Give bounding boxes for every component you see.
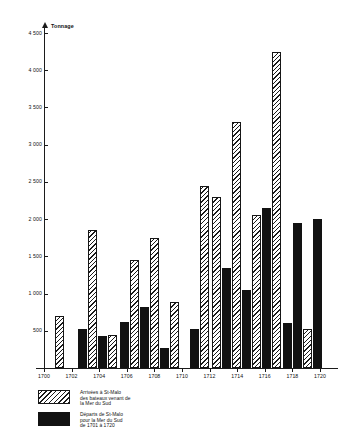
bar-dep-1706 [140, 307, 149, 368]
bar-arr-1703 [88, 230, 97, 368]
bar-arr-1713 [252, 215, 261, 368]
x-tick-label-1720: 1720 [314, 373, 326, 379]
legend-item-arrivals: Arrivées à St-Malo des bateaux venant de… [38, 390, 131, 407]
x-tick-1716 [265, 368, 266, 372]
x-tick-1704 [99, 368, 100, 372]
bar-dep-1713 [262, 208, 271, 368]
chart-page: Tonnage 5001 0001 5002 0002 5003 0003 50… [0, 0, 346, 446]
bar-dep-1707 [160, 348, 169, 368]
x-tick-label-1702: 1702 [66, 373, 78, 379]
bar-arr-1704 [108, 335, 117, 368]
x-tick-1700 [44, 368, 45, 372]
bar-arr-1714 [272, 52, 281, 368]
plot-area [0, 0, 346, 380]
bar-dep-1705 [120, 322, 129, 368]
chart-legend: Arrivées à St-Malo des bateaux venant de… [38, 390, 328, 442]
bar-dep-1711 [222, 268, 231, 369]
x-tick-label-1708: 1708 [148, 373, 160, 379]
x-tick-1702 [72, 368, 73, 372]
bar-dep-1715 [293, 223, 302, 368]
x-tick-label-1706: 1706 [121, 373, 133, 379]
bar-arr-1708 [170, 302, 179, 368]
x-tick-label-1714: 1714 [231, 373, 243, 379]
bar-arr-1710 [200, 186, 209, 368]
x-tick-1718 [292, 368, 293, 372]
bar-arr-1707 [150, 238, 159, 368]
x-tick-1710 [182, 368, 183, 372]
bar-dep-1710 [190, 329, 199, 368]
bar-dep-1702 [78, 329, 87, 368]
bar-dep-1712 [242, 290, 251, 368]
x-tick-label-1712: 1712 [204, 373, 216, 379]
legend-swatch-arrivals [38, 390, 70, 404]
legend-label-departures: Départs de St-Malo pour la Mer du Sud de… [80, 412, 123, 429]
bar-arr-1716 [303, 329, 312, 368]
x-tick-label-1710: 1710 [176, 373, 188, 379]
x-tick-label-1700: 1700 [38, 373, 50, 379]
bar-arr-1712 [232, 122, 241, 368]
x-tick-label-1718: 1718 [286, 373, 298, 379]
x-tick-label-1716: 1716 [259, 373, 271, 379]
x-tick-1708 [154, 368, 155, 372]
bar-dep-1703 [98, 336, 107, 368]
bar-arr-1711 [212, 197, 221, 368]
legend-item-departures: Départs de St-Malo pour la Mer du Sud de… [38, 412, 123, 429]
bar-arr-1705 [130, 260, 139, 368]
legend-label-arrivals: Arrivées à St-Malo des bateaux venant de… [80, 390, 131, 407]
bar-dep-1714 [283, 323, 292, 368]
x-tick-1720 [320, 368, 321, 372]
tonnage-bar-chart: Tonnage 5001 0001 5002 0002 5003 0003 50… [0, 0, 346, 380]
bar-dep-1716 [313, 219, 322, 368]
x-tick-1712 [210, 368, 211, 372]
x-tick-1706 [127, 368, 128, 372]
legend-swatch-departures [38, 412, 70, 426]
x-tick-1714 [237, 368, 238, 372]
bar-arr-1701 [55, 316, 64, 368]
x-tick-label-1704: 1704 [93, 373, 105, 379]
